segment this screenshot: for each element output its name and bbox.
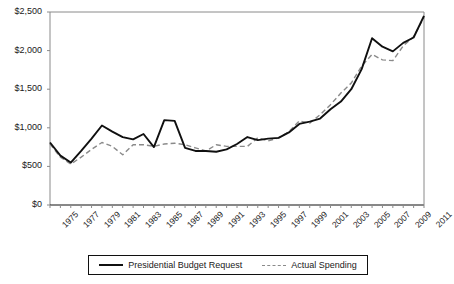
legend-entry-actual-spending: Actual Spending <box>262 260 357 270</box>
plot-frame <box>50 12 424 205</box>
y-tick-label: $1,000 <box>0 123 42 132</box>
series-line-presidential-budget-request <box>50 16 424 163</box>
legend-label-presidential-budget-request: Presidential Budget Request <box>128 260 242 270</box>
solid-line-icon <box>99 260 123 270</box>
y-tick-label: $1,500 <box>0 84 42 93</box>
series-line-actual-spending <box>50 17 424 164</box>
y-tick-label: $2,000 <box>0 46 42 55</box>
x-tick-label: 2011 <box>434 210 453 229</box>
chart-legend: Presidential Budget Request Actual Spend… <box>88 255 368 275</box>
y-tick-label: $500 <box>0 161 42 170</box>
dashed-line-icon <box>262 260 286 270</box>
y-tick-label: $2,500 <box>0 7 42 16</box>
y-tick-label: $0 <box>0 200 42 209</box>
legend-label-actual-spending: Actual Spending <box>291 260 357 270</box>
legend-entry-presidential-budget-request: Presidential Budget Request <box>99 260 242 270</box>
